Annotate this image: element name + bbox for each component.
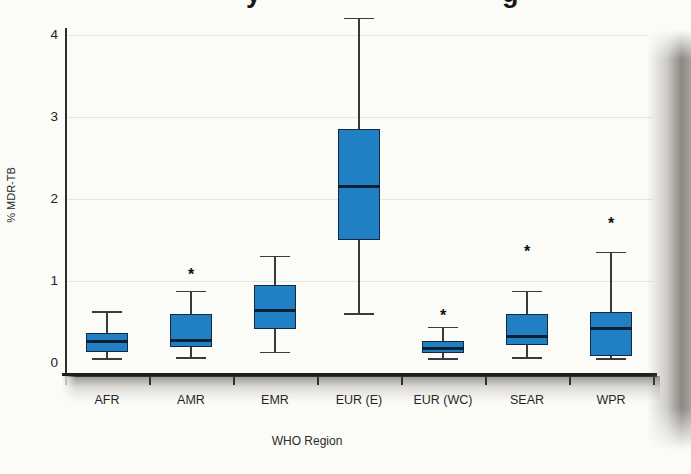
page-curl-shadow [647,30,691,450]
whisker-cap-max [344,18,374,20]
whisker-cap-min [260,352,290,354]
median-line [338,185,380,188]
y-axis-title: % MDR-TB [0,188,48,202]
whisker-cap-min [344,313,374,315]
outlier-asterisk: * [185,268,197,282]
median-line [422,347,464,350]
whisker-cap-min [512,357,542,359]
whisker-cap-min [596,358,626,360]
gridline [67,281,653,282]
y-tick-label: 1 [30,273,58,289]
box-iqr [254,285,296,329]
y-axis-line [65,28,67,377]
y-tick-label: 4 [30,27,58,43]
outlier-asterisk: * [605,217,617,231]
cropped-title-fragment: y [246,0,264,8]
scanned-boxplot-figure: y g 01234AFR*AMREMREUR (E)*EUR (WC)*SEAR… [0,0,691,474]
gridline [67,117,653,118]
whisker-cap-max [512,291,542,293]
scan-shadow [62,376,660,402]
outlier-asterisk: * [521,245,533,259]
y-tick-label: 3 [30,109,58,125]
whisker-cap-min [428,358,458,360]
median-line [590,327,632,330]
box-iqr [590,312,632,356]
median-line [506,335,548,338]
median-line [254,309,296,312]
whisker-cap-max [596,252,626,254]
whisker-cap-max [176,291,206,293]
y-tick-label: 0 [30,355,58,371]
median-line [86,340,128,343]
box-iqr [506,314,548,345]
whisker-cap-max [92,311,122,313]
cropped-title-fragment: g [502,0,522,8]
whisker-cap-min [92,358,122,360]
median-line [170,339,212,342]
whisker-cap-min [176,357,206,359]
box-iqr [170,314,212,348]
gridline [67,35,653,36]
x-axis-title: WHO Region [247,434,367,448]
whisker-cap-max [260,256,290,258]
outlier-asterisk: * [437,309,449,323]
whisker-cap-max [428,327,458,329]
